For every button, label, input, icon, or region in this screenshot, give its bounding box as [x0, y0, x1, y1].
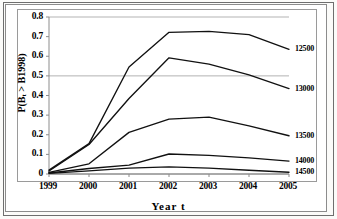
y-axis-label-tail: > B1998)	[16, 53, 27, 94]
series-line-12500	[49, 31, 289, 170]
x-tick-label: 2001	[111, 181, 145, 191]
chart-figure: 0.80.70.60.50.40.30.20.10 19992000200120…	[0, 0, 337, 219]
series-label-14500: 14500	[295, 167, 314, 176]
series-line-13500	[49, 117, 289, 172]
x-axis-label: Year t	[0, 200, 337, 212]
series-label-13000: 13000	[295, 84, 314, 93]
y-tick-label: 0.8	[17, 11, 43, 21]
y-tick-label: 0	[17, 168, 43, 178]
x-tick-label: 2004	[231, 181, 265, 191]
x-tick-label: 2000	[71, 181, 105, 191]
y-axis-label-main: P(B	[16, 96, 27, 112]
line-chart-svg	[18, 10, 316, 181]
y-axis-label-subscript: t	[20, 94, 28, 96]
series-label-13500: 13500	[295, 131, 314, 140]
x-tick-label: 1999	[31, 181, 65, 191]
chart-plot-container	[17, 9, 317, 182]
x-tick-label: 2002	[151, 181, 185, 191]
x-tick-label: 2003	[191, 181, 225, 191]
series-line-14500	[49, 167, 289, 173]
series-label-12500: 12500	[295, 44, 314, 53]
x-tick-label: 2005	[271, 181, 305, 191]
y-tick-label: 0.1	[17, 148, 43, 158]
y-axis-label: P(Bt > B1998)	[16, 23, 28, 143]
series-label-14000: 14000	[295, 156, 314, 165]
